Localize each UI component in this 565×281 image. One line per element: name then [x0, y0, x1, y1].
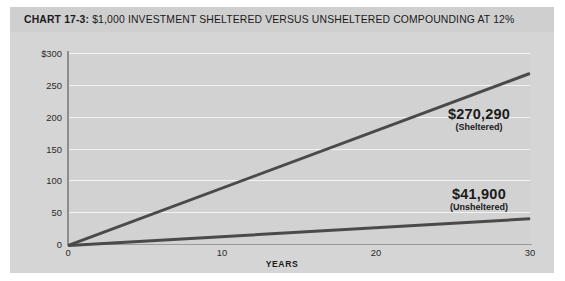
annotation-sheltered-caption: (Sheltered)	[416, 122, 542, 134]
annotation-unsheltered: $41,900 (Unsheltered)	[416, 187, 542, 214]
gridline	[68, 85, 530, 86]
x-axis-line	[68, 244, 532, 245]
x-tick-label: 30	[525, 247, 535, 258]
gridline	[68, 53, 530, 54]
y-tick-label: 250	[18, 79, 62, 90]
y-tick-label: 0	[18, 239, 62, 250]
annotation-unsheltered-value: $41,900	[416, 187, 542, 202]
y-axis-line	[67, 51, 69, 246]
plot-area	[68, 53, 530, 244]
gridline	[68, 149, 530, 150]
y-tick-label: 50	[18, 207, 62, 218]
x-tick-label: 0	[65, 247, 70, 258]
annotation-unsheltered-caption: (Unsheltered)	[416, 202, 542, 214]
y-tick-label: 100	[18, 175, 62, 186]
x-tick-label: 10	[217, 247, 227, 258]
annotation-sheltered: $270,290 (Sheltered)	[416, 107, 542, 134]
chart-title: CHART 17-3: $1,000 INVESTMENT SHELTERED …	[24, 14, 514, 25]
x-tick-label: 20	[371, 247, 381, 258]
y-axis-tick-labels: $300250200150100500	[14, 7, 62, 273]
chart-title-rest: $1,000 INVESTMENT SHELTERED VERSUS UNSHE…	[89, 14, 514, 25]
x-axis-title: YEARS	[10, 259, 554, 269]
chart-title-band: CHART 17-3: $1,000 INVESTMENT SHELTERED …	[10, 7, 554, 32]
y-tick-label: 150	[18, 143, 62, 154]
chart-figure: CHART 17-3: $1,000 INVESTMENT SHELTERED …	[10, 7, 554, 273]
y-tick-label: 200	[18, 111, 62, 122]
y-tick-label: $300	[18, 48, 62, 59]
gridline	[68, 180, 530, 181]
